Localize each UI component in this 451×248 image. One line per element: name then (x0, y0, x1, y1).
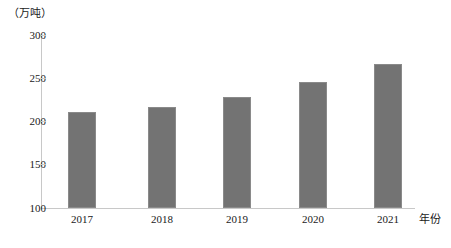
y-tick-300: 300 (0, 30, 46, 41)
y-tick-mark-300 (41, 35, 46, 36)
x-tick-label-2018: 2018 (138, 212, 186, 226)
x-tick-label-2017: 2017 (58, 212, 106, 226)
bar-chart: （万吨） 300 250 200 150 100 2017 2018 2019 … (0, 0, 451, 248)
y-tick-mark-150 (41, 164, 46, 165)
y-tick-250: 250 (0, 73, 46, 84)
bar-2017 (68, 112, 96, 208)
x-tick-label-2020: 2020 (289, 212, 337, 226)
bar-2020 (299, 82, 327, 208)
bar-2019 (223, 97, 251, 208)
x-tick-label-2021: 2021 (364, 212, 412, 226)
x-tick-label-2019: 2019 (213, 212, 261, 226)
y-tick-mark-250 (41, 78, 46, 79)
x-axis-title: 年份 (419, 212, 441, 226)
y-axis-unit-label: （万吨） (8, 6, 52, 20)
y-tick-mark-200 (41, 121, 46, 122)
x-axis-line (41, 208, 415, 209)
y-tick-100: 100 (0, 203, 46, 214)
bar-2018 (148, 107, 176, 208)
bar-2021 (374, 64, 402, 208)
y-tick-label: 100 (14, 203, 46, 214)
y-tick-200: 200 (0, 116, 46, 127)
y-tick-150: 150 (0, 159, 46, 170)
